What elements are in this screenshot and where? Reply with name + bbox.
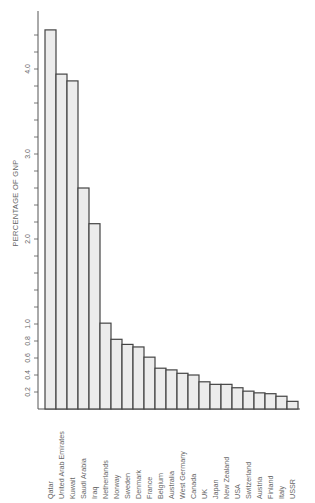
y-tick-label: 0.6 — [24, 353, 31, 363]
category-label: UK — [200, 489, 209, 499]
category-label: United Arab Emirates — [57, 431, 66, 499]
bar — [254, 393, 265, 409]
y-axis-title: PERCENTAGE OF GNP — [11, 159, 20, 246]
bar — [78, 188, 89, 409]
category-label: USSR — [288, 479, 297, 499]
bar — [155, 368, 166, 409]
category-label: Iraq — [90, 487, 99, 499]
bar — [56, 74, 67, 409]
bar — [67, 81, 78, 409]
bar — [232, 388, 243, 409]
y-tick-label: 2.0 — [24, 234, 31, 244]
bars — [45, 30, 298, 409]
bar — [287, 401, 298, 409]
category-label: Canada — [189, 474, 198, 499]
bar — [133, 347, 144, 409]
category-label: Switzerland — [244, 462, 253, 499]
y-tick-label: 0.8 — [24, 336, 31, 346]
category-label: Australia — [167, 471, 176, 499]
bar — [276, 396, 287, 409]
bar — [111, 339, 122, 409]
bar — [89, 224, 100, 409]
bar — [177, 373, 188, 409]
bar — [122, 344, 133, 409]
bar — [188, 375, 199, 409]
bar — [210, 384, 221, 409]
category-label: Finland — [266, 475, 275, 499]
category-label: Austria — [255, 477, 264, 499]
category-label: Saudi Arabia — [79, 458, 88, 499]
category-label: USA — [233, 484, 242, 499]
bar — [166, 370, 177, 409]
bar — [100, 323, 111, 409]
bar — [243, 391, 254, 409]
y-tick-label: 0.2 — [24, 387, 31, 397]
y-tick-label: 1.0 — [24, 319, 31, 329]
bar — [45, 30, 56, 409]
category-label: Qatar — [46, 480, 55, 499]
bar — [221, 384, 232, 409]
y-tick-label: 0.4 — [24, 370, 31, 380]
category-label: Japan — [211, 479, 220, 499]
y-tick-label: 4.0 — [24, 64, 31, 74]
bar — [199, 382, 210, 409]
bar-chart: 0.20.40.60.81.02.03.04.0 PERCENTAGE OF G… — [0, 0, 315, 503]
category-label: Italy — [277, 485, 286, 499]
category-label: Belgium — [156, 473, 165, 499]
category-label: New Zealand — [222, 457, 231, 499]
category-label: France — [145, 477, 154, 499]
category-label: Denmark — [134, 469, 143, 499]
category-label: West Germany — [178, 451, 187, 499]
y-tick-label: 3.0 — [24, 149, 31, 159]
category-label: Kuwait — [68, 477, 77, 499]
bar — [265, 394, 276, 409]
category-labels: QatarUnited Arab EmiratesKuwaitSaudi Ara… — [46, 431, 297, 499]
category-label: Netherlands — [101, 460, 110, 499]
category-label: Norway — [112, 474, 121, 499]
bar — [144, 357, 155, 409]
category-label: Sweden — [123, 473, 132, 499]
